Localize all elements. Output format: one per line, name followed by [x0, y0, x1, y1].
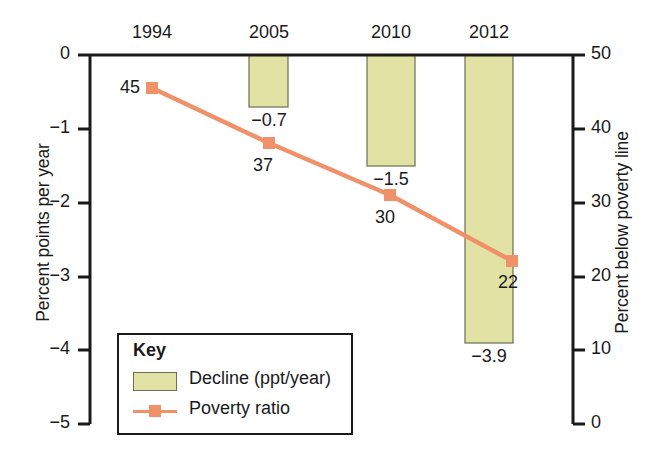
marker-2012 — [506, 255, 518, 267]
legend-line-marker-icon — [149, 405, 161, 417]
bar-value-2010: −1.5 — [356, 169, 426, 190]
year-label-2012: 2012 — [449, 22, 529, 43]
point-value-1994: 45 — [105, 77, 155, 98]
bar-value-2005: −0.7 — [234, 110, 304, 131]
bar-2010 — [367, 55, 415, 166]
year-label-2005: 2005 — [229, 22, 309, 43]
left-tick-3: −3 — [26, 265, 70, 286]
bar-series-decline — [249, 55, 513, 343]
left-tick-5: −5 — [26, 412, 70, 433]
point-value-2005: 37 — [238, 155, 288, 176]
left-tick-0: 0 — [26, 43, 70, 64]
left-tick-1: −1 — [26, 117, 70, 138]
right-tick-0: 0 — [591, 412, 635, 433]
marker-2010 — [384, 189, 396, 201]
right-tick-10: 10 — [591, 338, 635, 359]
legend-label-poverty-ratio: Poverty ratio — [189, 398, 290, 419]
legend-bar-swatch-icon — [133, 372, 177, 391]
right-tick-20: 20 — [591, 265, 635, 286]
bar-2012 — [465, 55, 513, 343]
bar-value-2012: −3.9 — [454, 346, 524, 367]
chart-figure: Percent points per year Percent below po… — [0, 0, 664, 464]
right-axis — [573, 55, 585, 424]
marker-2005 — [263, 137, 275, 149]
right-tick-40: 40 — [591, 117, 635, 138]
point-value-2010: 30 — [360, 207, 410, 228]
year-label-1994: 1994 — [112, 22, 192, 43]
line-series-poverty-ratio — [146, 82, 518, 267]
point-value-2012: 22 — [483, 272, 533, 293]
legend-label-decline: Decline (ppt/year) — [189, 368, 331, 389]
left-tick-2: −2 — [26, 191, 70, 212]
legend-title: Key — [133, 340, 166, 361]
left-axis — [78, 55, 90, 424]
bar-2005 — [249, 55, 288, 107]
right-tick-50: 50 — [591, 43, 635, 64]
year-label-2010: 2010 — [351, 22, 431, 43]
chart-legend: Key Decline (ppt/year) Poverty ratio — [117, 333, 353, 435]
left-tick-4: −4 — [26, 338, 70, 359]
right-tick-30: 30 — [591, 191, 635, 212]
